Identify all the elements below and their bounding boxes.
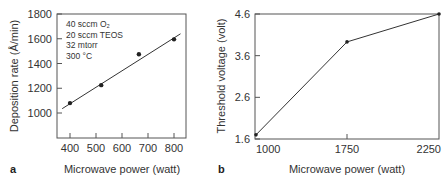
x-tick-label-b: 1000 [256,143,280,155]
data-point [99,83,103,87]
y-tick-label-a: 1400 [28,58,52,70]
annotation: 32 mtorr [66,40,98,50]
annotation: 20 sccm TEOS [66,30,123,40]
y-tick-label-a: 1000 [28,107,52,119]
y-tick-label-b: 4.6 [235,8,250,20]
data-point [345,40,349,44]
chart-b-frame [255,14,439,139]
x-tick-label-b: 1750 [335,143,359,155]
x-tick-label-a: 800 [165,142,183,154]
x-tick-label-a: 600 [113,142,131,154]
y-tick-label-b: 2.6 [235,91,250,103]
data-point [172,37,176,41]
chart-b: 1.62.63.64.6 100017502250 Threshold volt… [215,8,441,175]
x-tick-label-a: 700 [139,142,157,154]
chart-a-panel-label: a [10,163,17,175]
y-tick-label-a: 1600 [28,33,52,45]
chart-b-panel-label: b [218,163,225,175]
y-tick-label-b: 3.6 [235,50,250,62]
data-point [254,133,258,137]
annotation: 300 °C [66,51,92,61]
chart-b-xlabel: Microwave power (watt) [289,163,405,175]
x-tick-label-a: 500 [87,142,105,154]
data-point [437,12,441,16]
chart-a: 10001200140016001800 400500600700800 40 … [8,8,186,175]
y-tick-label-a: 1200 [28,82,52,94]
chart-a-xlabel: Microwave power (watt) [64,163,180,175]
y-tick-label-b: 1.6 [235,133,250,145]
chart-b-ylabel: Threshold voltage (volt) [215,19,227,134]
data-point [68,101,72,105]
data-point [137,52,141,56]
annotation: 40 sccm O₂ [66,19,110,29]
series-line [256,14,439,135]
chart-a-ylabel: Deposition rate (Å/min) [8,20,20,133]
y-tick-label-a: 1800 [28,8,52,20]
x-tick-label-b: 2250 [417,143,441,155]
x-tick-label-a: 400 [61,142,79,154]
figure: 10001200140016001800 400500600700800 40 … [0,0,446,182]
